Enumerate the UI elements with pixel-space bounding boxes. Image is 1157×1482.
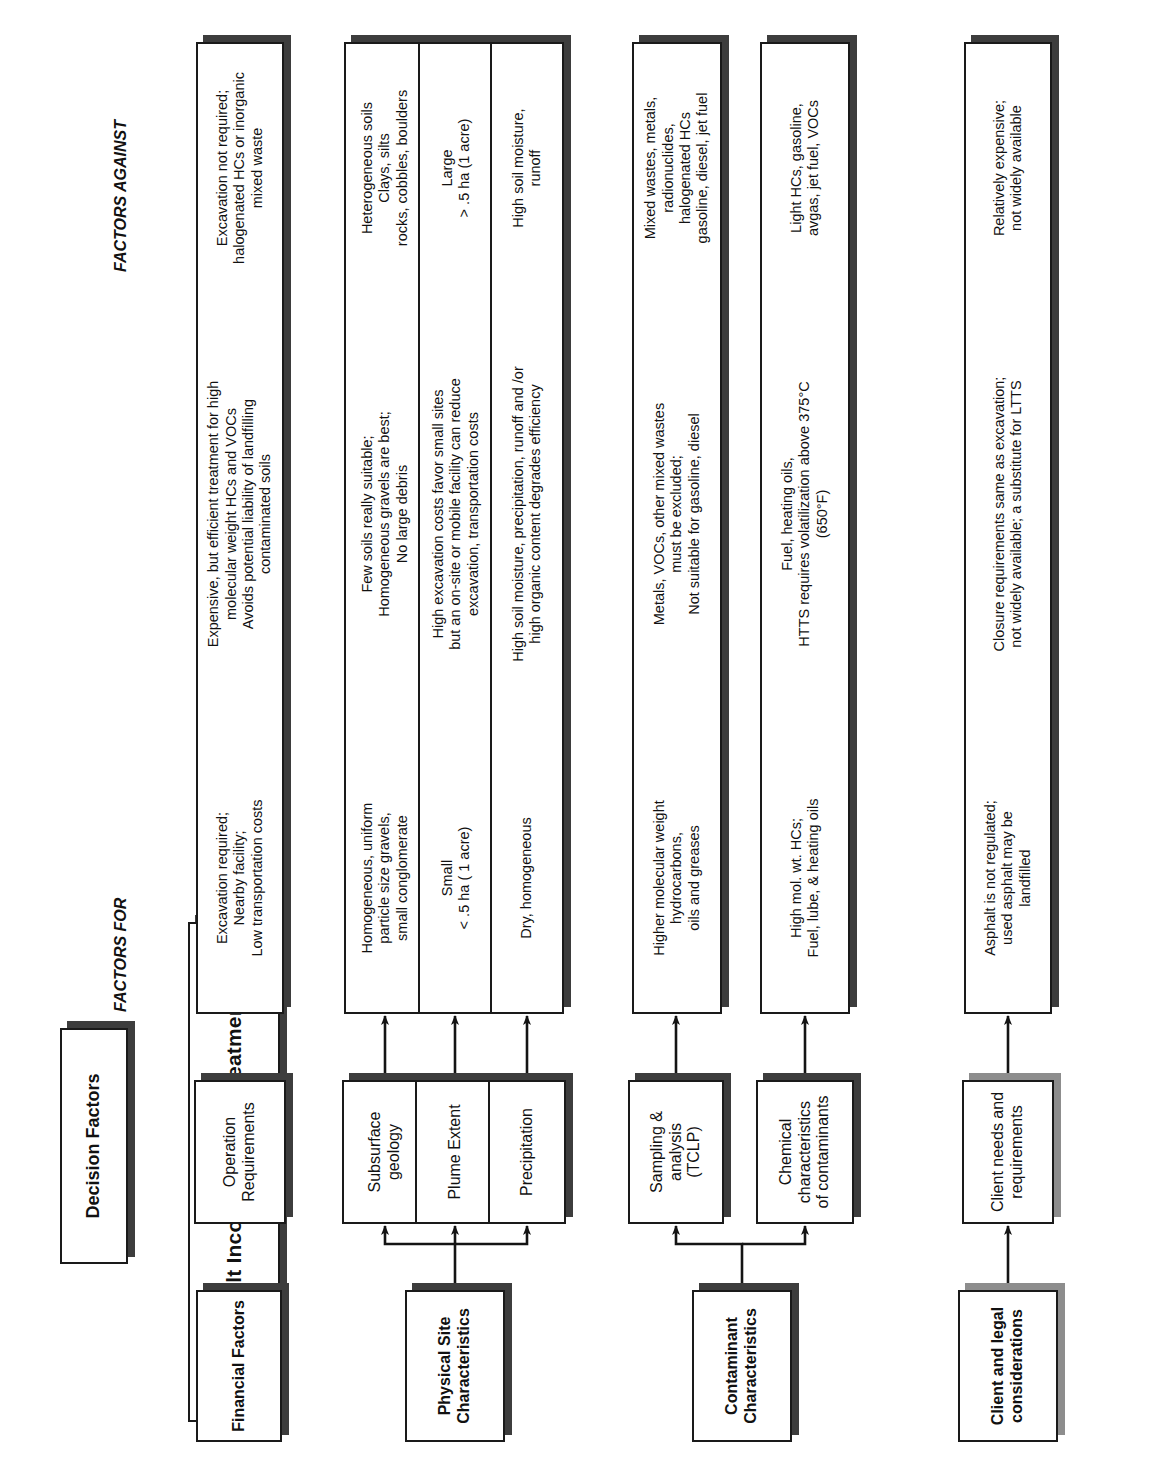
factors-for-chemical-characteristics: High mol. wt. HCs; Fuel, lube, & heating…: [762, 744, 848, 1012]
factor-row-sampling-analysis: Higher molecular weight hydrocarbons, oi…: [632, 42, 722, 1014]
factor-row-client-needs: Asphalt is not regulated; used asphalt m…: [964, 42, 1052, 1014]
category-label-physical: Physical Site Characteristics: [432, 1302, 478, 1430]
factors-against-chemical-characteristics: Light HCs, gasoline, avgas, jet fuel, VO…: [762, 40, 848, 296]
evaluation-subsurface-geology: Few soils really suitable; Homogeneous g…: [346, 304, 424, 724]
factor-row-plume-extent: Small < .5 ha ( 1 acre) High excavation …: [418, 42, 494, 1014]
header-decision-factors-text: Decision Factors: [79, 1067, 108, 1224]
factors-for-operation-requirements: Excavation required; Nearby facility; Lo…: [198, 744, 282, 1012]
evaluation-operation-requirements: Expensive, but efficient treatment for h…: [198, 304, 282, 724]
diagram-canvas: Asphalt Incorporation & Treatment Evalua…: [0, 0, 1157, 1482]
evaluation-chemical-characteristics: Fuel, heating oils, HTTS requires volati…: [762, 304, 848, 724]
evaluation-sampling-analysis: Metals, VOCs, other mixed wastes must be…: [634, 304, 720, 724]
category-label-client: Client and legal considerations: [985, 1301, 1031, 1431]
factors-against-precipitation: High soil moisture, runoff: [492, 40, 562, 296]
factors-against-client-needs: Relatively expensive; not widely availab…: [966, 40, 1050, 296]
node-label-plume-extent: Plume Extent: [442, 1098, 469, 1205]
evaluation-plume-extent: High excavation costs favor small sites …: [420, 304, 492, 724]
factors-for-subsurface-geology: Homogeneous, uniform particle size grave…: [346, 744, 424, 1012]
node-label-subsurface-geology: Subsurface geology: [362, 1106, 408, 1199]
node-box-operation-requirements[interactable]: Operation Requirements: [194, 1080, 286, 1224]
factors-for-precipitation: Dry, homogeneous: [492, 744, 562, 1012]
node-box-client-needs[interactable]: Client needs and requirements: [962, 1080, 1054, 1224]
factor-row-operation-requirements: Excavation required; Nearby facility; Lo…: [196, 42, 284, 1014]
evaluation-client-needs: Closure requirements same as excavation;…: [966, 304, 1050, 724]
factor-row-subsurface-geology: Homogeneous, uniform particle size grave…: [344, 42, 426, 1014]
node-box-precipitation[interactable]: Precipitation: [488, 1080, 566, 1224]
factors-for-sampling-analysis: Higher molecular weight hydrocarbons, oi…: [634, 744, 720, 1012]
node-label-chemical-characteristics: Chemical characteristics of contaminants: [773, 1090, 838, 1215]
category-box-contaminant[interactable]: Contaminant Characteristics: [692, 1290, 792, 1442]
factors-against-sampling-analysis: Mixed wastes, metals, radionuclides, hal…: [634, 40, 720, 296]
evaluation-precipitation: High soil moisture, precipitation, runof…: [492, 304, 562, 724]
node-label-operation-requirements: Operation Requirements: [217, 1096, 263, 1208]
diagram-rotated-canvas: Asphalt Incorporation & Treatment Evalua…: [0, 0, 1157, 1482]
node-box-plume-extent[interactable]: Plume Extent: [415, 1080, 495, 1224]
factors-against-operation-requirements: Excavation not required; halogenated HCs…: [198, 40, 282, 296]
node-box-chemical-characteristics[interactable]: Chemical characteristics of contaminants: [756, 1080, 854, 1224]
header-factors-against: FACTORS AGAINST: [112, 120, 130, 272]
category-label-contaminant: Contaminant Characteristics: [719, 1302, 765, 1430]
node-label-sampling-analysis: Sampling & analysis (TCLP): [644, 1105, 709, 1199]
factor-row-precipitation: Dry, homogeneous High soil moisture, pre…: [490, 42, 564, 1014]
header-decision-factors: Decision Factors: [60, 1028, 128, 1264]
category-box-client[interactable]: Client and legal considerations: [958, 1290, 1058, 1442]
header-factors-for: FACTORS FOR: [112, 898, 130, 1012]
factors-for-plume-extent: Small < .5 ha ( 1 acre): [420, 744, 492, 1012]
factors-against-plume-extent: Large > .5 ha (1 acre): [420, 40, 492, 296]
factor-row-chemical-characteristics: High mol. wt. HCs; Fuel, lube, & heating…: [760, 42, 850, 1014]
category-label-financial: Financial Factors: [226, 1294, 253, 1438]
factors-against-subsurface-geology: Heterogeneous soils Clays, silts rocks, …: [346, 40, 424, 296]
category-box-financial[interactable]: Financial Factors: [196, 1290, 282, 1442]
node-label-precipitation: Precipitation: [514, 1102, 541, 1202]
node-label-client-needs: Client needs and requirements: [985, 1086, 1031, 1218]
node-box-sampling-analysis[interactable]: Sampling & analysis (TCLP): [628, 1080, 724, 1224]
category-box-physical[interactable]: Physical Site Characteristics: [405, 1290, 505, 1442]
factors-for-client-needs: Asphalt is not regulated; used asphalt m…: [966, 744, 1050, 1012]
